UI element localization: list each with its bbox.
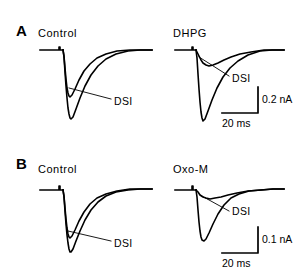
dsi-pointer-b-oxom bbox=[200, 195, 229, 211]
trace-b-oxom-dsi bbox=[196, 189, 284, 199]
condition-label-a-dhpg: DHPG bbox=[173, 27, 207, 39]
condition-label-b-oxom: Oxo-M bbox=[173, 163, 209, 175]
trace-a-dhpg-control bbox=[196, 50, 284, 121]
condition-label-b-control: Control bbox=[38, 163, 77, 175]
dsi-label-a-dhpg: DSI bbox=[232, 72, 250, 84]
trace-b-control-dsi bbox=[63, 189, 152, 238]
trace-a-control-control bbox=[63, 50, 152, 119]
trace-a-dhpg-dsi bbox=[196, 50, 284, 66]
trace-b-control-control bbox=[63, 189, 152, 252]
dsi-label-b-control: DSI bbox=[114, 237, 132, 249]
scale-label-a-horizontal: 20 ms bbox=[222, 117, 251, 129]
trace-layer bbox=[0, 0, 306, 276]
trace-b-control-baseline bbox=[40, 186, 63, 190]
panel-letter-a: A bbox=[16, 22, 27, 39]
trace-a-control-baseline bbox=[40, 47, 63, 50]
trace-a-control-dsi bbox=[63, 50, 152, 97]
panel-letter-b: B bbox=[16, 155, 27, 172]
scale-bar-b bbox=[222, 227, 258, 253]
scale-label-b-horizontal: 20 ms bbox=[222, 257, 251, 269]
scale-label-a-vertical: 0.2 nA bbox=[262, 93, 292, 105]
dsi-pointer-a-control bbox=[69, 88, 111, 99]
dsi-pointer-b-control bbox=[68, 231, 111, 241]
dsi-pointer-a-dhpg bbox=[199, 57, 229, 76]
trace-b-oxom-baseline bbox=[175, 186, 196, 190]
scale-label-b-vertical: 0.1 nA bbox=[262, 233, 292, 245]
scale-bar-a bbox=[222, 87, 258, 113]
figure-root: A Control DHPG DSI DSI 0.2 nA 20 ms B Co… bbox=[0, 0, 306, 276]
dsi-label-b-oxom: DSI bbox=[232, 205, 250, 217]
dsi-label-a-control: DSI bbox=[114, 95, 132, 107]
trace-a-dhpg-baseline bbox=[175, 47, 196, 50]
condition-label-a-control: Control bbox=[38, 27, 77, 39]
